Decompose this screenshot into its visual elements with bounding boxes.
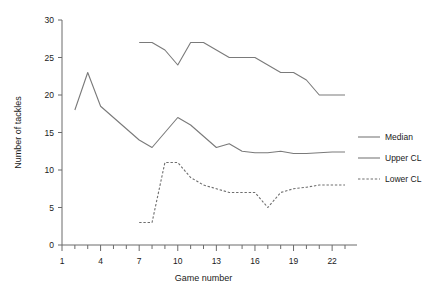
y-tick-label: 15 (45, 128, 55, 138)
x-axis-title: Game number (175, 273, 233, 283)
legend-label: Upper CL (385, 153, 422, 163)
legend-label: Lower CL (385, 174, 422, 184)
y-tick-label: 30 (45, 15, 55, 25)
x-axis: 1471013161922 (60, 245, 357, 266)
series-line-upper-cl (139, 43, 345, 96)
y-axis-title: Number of tackles (13, 96, 23, 169)
x-tick-label: 4 (98, 256, 103, 266)
y-tick-label: 25 (45, 53, 55, 63)
y-tick-label: 10 (45, 165, 55, 175)
x-tick-label: 10 (173, 256, 183, 266)
chart-legend: MedianUpper CLLower CL (358, 132, 422, 184)
x-tick-label: 19 (289, 256, 299, 266)
series-line-lower-cl (139, 163, 345, 223)
line-chart: 051015202530 1471013161922 MedianUpper C… (0, 0, 447, 299)
legend-label: Median (385, 132, 413, 142)
series-line-median (75, 73, 345, 154)
y-tick-label: 20 (45, 90, 55, 100)
x-tick-label: 16 (250, 256, 260, 266)
x-tick-label: 22 (327, 256, 337, 266)
y-axis: 051015202530 (45, 15, 62, 250)
series-layer (75, 43, 345, 223)
x-tick-label: 7 (137, 256, 142, 266)
x-tick-label: 1 (60, 256, 65, 266)
y-tick-label: 5 (49, 203, 54, 213)
chart-container: 051015202530 1471013161922 MedianUpper C… (0, 0, 447, 299)
y-tick-label: 0 (49, 240, 54, 250)
x-tick-label: 13 (212, 256, 222, 266)
